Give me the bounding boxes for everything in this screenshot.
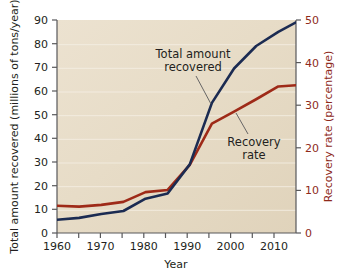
r-tick-30: 30: [305, 99, 319, 112]
r-tick-10: 10: [305, 184, 319, 197]
y-tick-50: 50: [34, 109, 48, 122]
recycling-line-chart: 0 10 20 30 40 50 60 70 80 90 0 10 20 30 …: [0, 0, 345, 278]
r-tick-50: 50: [305, 14, 319, 27]
x-axis-tick-labels: 1960 1970 1980 1990 2000 2010: [43, 240, 288, 253]
annotation-rate-line2: rate: [242, 148, 265, 162]
y-tick-10: 10: [34, 203, 48, 216]
y-tick-20: 20: [34, 180, 48, 193]
x-axis-title: Year: [163, 258, 188, 271]
x-tick-1990: 1990: [173, 240, 201, 253]
r-tick-40: 40: [305, 57, 319, 70]
r-tick-0: 0: [305, 227, 312, 240]
x-axis: [57, 233, 296, 238]
x-tick-2010: 2010: [260, 240, 288, 253]
y-axis-left: [52, 20, 57, 233]
annotation-total-line1: Total amount: [155, 47, 231, 61]
y-axis-right-title: Recovery rate (percentage): [322, 51, 335, 203]
annotation-total-line2: recovered: [164, 60, 222, 74]
y-tick-70: 70: [34, 61, 48, 74]
x-tick-1980: 1980: [130, 240, 158, 253]
y-axis-left-tick-labels: 0 10 20 30 40 50 60 70 80 90: [34, 14, 48, 240]
x-tick-2000: 2000: [217, 240, 245, 253]
x-tick-1960: 1960: [43, 240, 71, 253]
chart-figure: 0 10 20 30 40 50 60 70 80 90 0 10 20 30 …: [0, 0, 345, 278]
y-tick-90: 90: [34, 14, 48, 27]
y-tick-80: 80: [34, 38, 48, 51]
y-tick-0: 0: [41, 227, 48, 240]
x-tick-1970: 1970: [86, 240, 114, 253]
y-tick-60: 60: [34, 85, 48, 98]
y-axis-right-tick-labels: 0 10 20 30 40 50: [305, 14, 319, 240]
annotation-rate-line1: Recovery: [227, 135, 281, 149]
y-axis-left-title: Total amount recovered (millions of tons…: [8, 0, 21, 255]
y-axis-right: [296, 20, 301, 233]
y-tick-30: 30: [34, 156, 48, 169]
r-tick-20: 20: [305, 142, 319, 155]
y-tick-40: 40: [34, 132, 48, 145]
